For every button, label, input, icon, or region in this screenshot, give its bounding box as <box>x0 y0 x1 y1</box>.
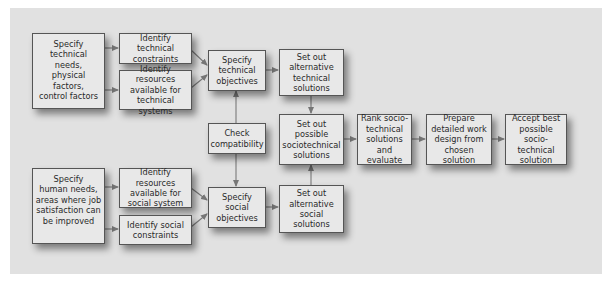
node-label: Set out possible sociotechnical solution… <box>282 119 340 161</box>
node-check-compatibility: Check compatibility <box>208 123 266 154</box>
node-specify-technical-objectives: Specify technical objectives <box>208 50 266 91</box>
node-label: Specify human needs, areas where job sat… <box>36 174 101 226</box>
node-label: Identify social constraints <box>127 220 184 241</box>
node-label: Set out alternative technical solutions <box>289 52 333 94</box>
node-identify-resources-technical: Identify resources available for technic… <box>119 70 192 110</box>
node-label: Prepare detailed work design from chosen… <box>429 113 489 165</box>
node-identify-technical-constraints: Identify technical constraints <box>119 33 192 64</box>
node-label: Specify technical objectives <box>216 55 258 86</box>
node-accept-best: Accept best possible socio- technical so… <box>505 114 567 165</box>
node-set-out-possible-sociotechnical: Set out possible sociotechnical solution… <box>279 114 344 165</box>
node-specify-social-objectives: Specify social objectives <box>208 187 266 228</box>
node-label: Check compatibility <box>210 128 263 149</box>
node-identify-social-constraints: Identify social constraints <box>119 215 192 245</box>
node-label: Rank socio- technical solutions and eval… <box>360 113 409 165</box>
node-label: Identify technical constraints <box>122 33 189 64</box>
node-prepare-work-design: Prepare detailed work design from chosen… <box>426 114 492 165</box>
node-label: Specify technical needs, physical factor… <box>35 39 102 101</box>
node-specify-technical-needs: Specify technical needs, physical factor… <box>32 33 105 109</box>
node-rank-sociotechnical: Rank socio- technical solutions and eval… <box>357 114 412 165</box>
node-identify-resources-social: Identify resources available for social … <box>119 168 192 208</box>
node-label: Identify resources available for technic… <box>122 64 189 116</box>
node-set-out-alternative-technical: Set out alternative technical solutions <box>279 49 344 96</box>
node-set-out-alternative-social: Set out alternative social solutions <box>279 185 344 233</box>
node-label: Specify social objectives <box>216 192 258 223</box>
node-specify-human-needs: Specify human needs, areas where job sat… <box>32 168 105 244</box>
node-label: Identify resources available for social … <box>122 167 189 209</box>
node-label: Set out alternative social solutions <box>289 188 333 230</box>
node-label: Accept best possible socio- technical so… <box>508 113 564 165</box>
